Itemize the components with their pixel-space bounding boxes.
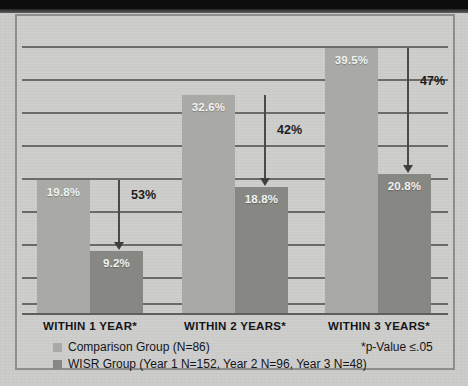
scan-edge-artifact (0, 0, 468, 13)
category-label-year3: WITHIN 3 YEARS* (328, 320, 430, 332)
gridline-1 (22, 46, 448, 48)
gridline-4 (22, 145, 448, 147)
axis-baseline (22, 313, 448, 315)
bar-comparison-year2[interactable]: 32.6% (182, 95, 235, 313)
category-label-year1: WITHIN 1 YEAR* (43, 320, 137, 332)
bar-comparison-year1[interactable]: 19.8% (37, 180, 90, 313)
legend-item-wisr[interactable]: WISR Group (Year 1 N=152, Year 2 N=96, Y… (53, 357, 367, 371)
bar-value-wisr-year2: 18.8% (235, 193, 288, 205)
legend-swatch-wisr (53, 360, 62, 369)
gridline-3 (22, 112, 448, 114)
bar-comparison-year3[interactable]: 39.5% (325, 48, 378, 313)
bar-wisr-year1[interactable]: 9.2% (90, 251, 143, 313)
gridline-2 (22, 79, 448, 81)
reduction-label-year2: 42% (277, 123, 302, 137)
reduction-label-year1: 53% (131, 188, 156, 202)
bar-value-comparison-year2: 32.6% (182, 101, 235, 113)
bar-wisr-year3[interactable]: 20.8% (378, 174, 431, 313)
legend-label-wisr: WISR Group (Year 1 N=152, Year 2 N=96, Y… (68, 357, 367, 371)
legend-item-comparison[interactable]: Comparison Group (N=86) (53, 340, 210, 354)
plot-area: 19.8% 9.2% 53% 32.6% 18.8% 42% 39.5% 20.… (22, 20, 448, 315)
bar-value-wisr-year3: 20.8% (378, 180, 431, 192)
legend-swatch-comparison (53, 343, 62, 352)
bar-value-comparison-year3: 39.5% (325, 54, 378, 66)
bar-wisr-year2[interactable]: 18.8% (235, 187, 288, 313)
p-value-footnote: *p-Value ≤.05 (361, 340, 433, 354)
category-label-year2: WITHIN 2 YEARS* (184, 320, 286, 332)
bar-value-comparison-year1: 19.8% (37, 186, 90, 198)
reduction-label-year3: 47% (420, 74, 445, 88)
legend-label-comparison: Comparison Group (N=86) (68, 340, 210, 354)
bar-value-wisr-year1: 9.2% (90, 257, 143, 269)
